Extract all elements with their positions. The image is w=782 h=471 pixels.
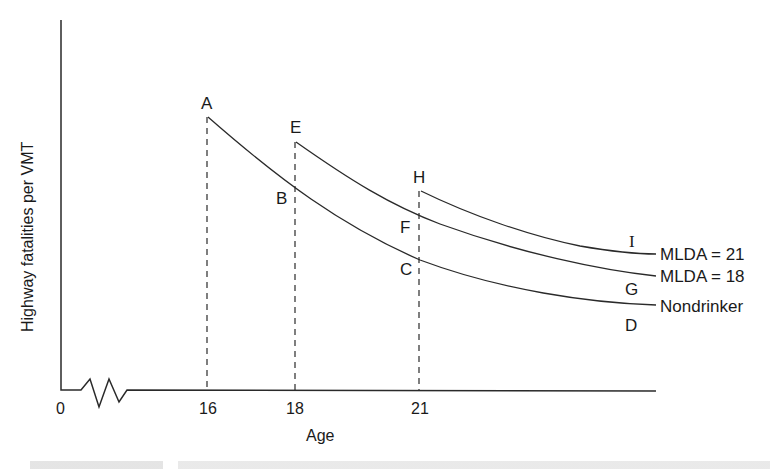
point-label-i: I — [629, 232, 635, 251]
point-label-e: E — [290, 118, 301, 137]
point-label-a: A — [201, 94, 213, 113]
curve-label-nondrinker: Nondrinker — [660, 297, 743, 316]
x-tick-18: 18 — [286, 400, 304, 417]
x-tick-21: 21 — [411, 400, 429, 417]
chart-canvas: A B C D E F G H I MLDA = 21 MLDA = 18 No… — [0, 0, 782, 471]
point-label-b: B — [276, 189, 287, 208]
curve-label-mlda-21: MLDA = 21 — [660, 245, 745, 264]
point-label-f: F — [400, 218, 410, 237]
curve-nondrinker — [208, 117, 656, 305]
x-axis-title: Age — [306, 427, 335, 444]
point-label-c: C — [400, 260, 412, 279]
point-label-h: H — [413, 168, 425, 187]
caption-placeholder — [30, 461, 770, 469]
figure-caption-truncated — [30, 455, 770, 471]
point-label-g: G — [625, 280, 638, 299]
curve-mlda-18 — [296, 142, 656, 276]
axes-with-break — [61, 20, 656, 407]
x-tick-16: 16 — [199, 400, 217, 417]
curve-label-mlda-18: MLDA = 18 — [660, 267, 745, 286]
curve-mlda-21 — [421, 191, 656, 254]
x-tick-0: 0 — [56, 400, 65, 417]
y-axis-title: Highway fatalities per VMT — [19, 141, 36, 332]
point-label-d: D — [625, 316, 637, 335]
